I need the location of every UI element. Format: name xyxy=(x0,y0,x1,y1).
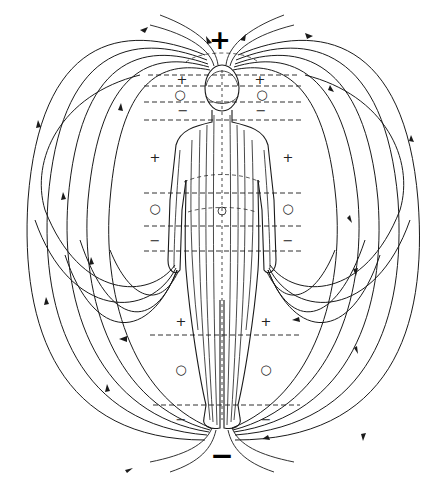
zone-marker: ○ xyxy=(256,88,267,101)
zone-marker: + xyxy=(176,315,187,328)
zone-marker: ○ xyxy=(174,88,185,101)
zone-marker: ○ xyxy=(149,202,160,215)
zone-marker: ○ xyxy=(175,363,186,376)
zone-marker: + xyxy=(150,151,161,164)
zone-marker: − xyxy=(261,413,272,426)
negative-pole-symbol: − xyxy=(210,439,233,472)
zone-marker: + xyxy=(283,151,294,164)
zone-marker: − xyxy=(178,104,189,117)
zone-marker: − xyxy=(256,104,267,117)
zone-marker: ○ xyxy=(260,363,271,376)
zone-marker: + xyxy=(261,315,272,328)
zone-marker: − xyxy=(176,413,187,426)
positive-pole-symbol: + xyxy=(209,25,231,55)
zone-marker: − xyxy=(283,234,294,247)
field-diagram xyxy=(0,0,448,501)
zone-marker: ○ xyxy=(282,202,293,215)
zone-marker: − xyxy=(150,234,161,247)
zone-marker: + xyxy=(177,73,188,86)
zone-marker: + xyxy=(255,73,266,86)
